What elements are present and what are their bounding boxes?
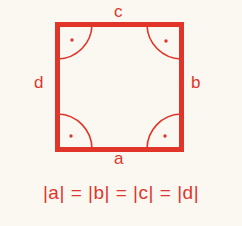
- right-angle-dot-bottom-left: [69, 134, 72, 137]
- side-label-top: c: [114, 3, 123, 20]
- right-angle-dot-top-left: [70, 38, 73, 41]
- right-angle-arc-bottom-right: [147, 114, 181, 149]
- side-label-bottom: a: [114, 150, 123, 167]
- right-angle-arc-top-right: [147, 25, 181, 59]
- right-angle-arc-top-left: [58, 25, 92, 59]
- right-angle-dot-top-right: [164, 39, 167, 42]
- side-label-left: d: [34, 74, 43, 91]
- right-angle-dot-bottom-right: [163, 134, 166, 137]
- right-angle-arc-bottom-left: [58, 114, 92, 149]
- square-outline: [58, 25, 182, 150]
- equal-sides-equation: |a| = |b| = |c| = |d|: [0, 182, 242, 204]
- side-label-right: b: [191, 74, 200, 91]
